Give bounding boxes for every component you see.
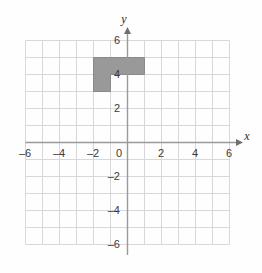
coordinate-plane-figure: x y –6 –4 –2 0 2 4 6 6 4 2 –2 –4 –6	[0, 0, 262, 273]
y-tick-label-4: 4	[114, 68, 120, 80]
x-tick-label--2: –2	[87, 147, 99, 159]
y-tick-label-2: 2	[114, 102, 120, 114]
y-axis-name-label: y	[120, 12, 127, 26]
x-tick-label--6: –6	[19, 147, 31, 159]
x-tick-label-2: 2	[158, 147, 164, 159]
y-tick-label--6: –6	[108, 238, 120, 250]
x-axis-name-label: x	[243, 129, 250, 143]
x-tick-label--4: –4	[53, 147, 65, 159]
x-tick-label-6: 6	[226, 147, 232, 159]
coordinate-plane-svg: x y –6 –4 –2 0 2 4 6 6 4 2 –2 –4 –6	[0, 0, 262, 273]
y-tick-label--2: –2	[108, 170, 120, 182]
y-tick-label--4: –4	[108, 204, 120, 216]
x-tick-label-0: 0	[116, 147, 122, 159]
y-tick-label-6: 6	[114, 34, 120, 46]
x-tick-label-4: 4	[192, 147, 198, 159]
